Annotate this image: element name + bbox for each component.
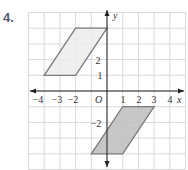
upper-parallelogram <box>44 28 107 75</box>
y-axis-arrow-up-icon <box>105 10 110 16</box>
x-tick-label: −4 <box>33 94 44 105</box>
x-axis-arrow-left-icon <box>30 89 36 94</box>
origin-label: O <box>95 94 102 105</box>
y-tick-label: 2 <box>96 55 101 66</box>
coordinate-plane: y x O −4 −3 −2 1 2 3 4 2 1 −2 <box>0 0 188 170</box>
y-axis-label: y <box>112 10 118 21</box>
x-tick-label: 4 <box>168 94 173 105</box>
y-axis-arrow-down-icon <box>105 161 110 167</box>
x-tick-label: 1 <box>121 94 126 105</box>
x-axis-label: x <box>176 94 182 105</box>
y-tick-label: 1 <box>98 70 103 81</box>
x-tick-label: −2 <box>68 94 79 105</box>
axes <box>30 10 184 167</box>
lower-parallelogram <box>91 107 154 154</box>
x-axis-arrow-right-icon <box>178 89 184 94</box>
x-tick-label: 2 <box>137 94 142 105</box>
x-tick-label: 3 <box>152 94 157 105</box>
y-tick-label: −2 <box>91 118 102 129</box>
x-tick-label: −3 <box>52 94 63 105</box>
